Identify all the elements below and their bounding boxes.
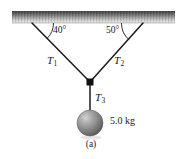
tension-t2-subscript: 2 — [120, 59, 124, 68]
tension-label-t3: T3 — [95, 92, 105, 103]
mass-label: 5.0 kg — [110, 116, 135, 126]
tension-t1-subscript: 1 — [53, 59, 57, 68]
figure-canvas — [0, 0, 182, 159]
tension-label-t1: T1 — [47, 55, 57, 66]
ceiling-support — [12, 11, 175, 23]
angle-label-right: 50° — [106, 26, 119, 36]
rope-junction-knot — [87, 79, 94, 86]
tension-t3-subscript: 3 — [101, 96, 105, 105]
physics-figure-tension-diagram: 40° 50° T1 T2 T3 5.0 kg (a) — [0, 0, 182, 159]
angle-label-left: 40° — [53, 26, 66, 36]
figure-caption: (a) — [0, 140, 182, 150]
hanging-mass-ball — [77, 110, 103, 140]
tension-label-t2: T2 — [114, 55, 124, 66]
angle-arc-right — [121, 23, 128, 40]
